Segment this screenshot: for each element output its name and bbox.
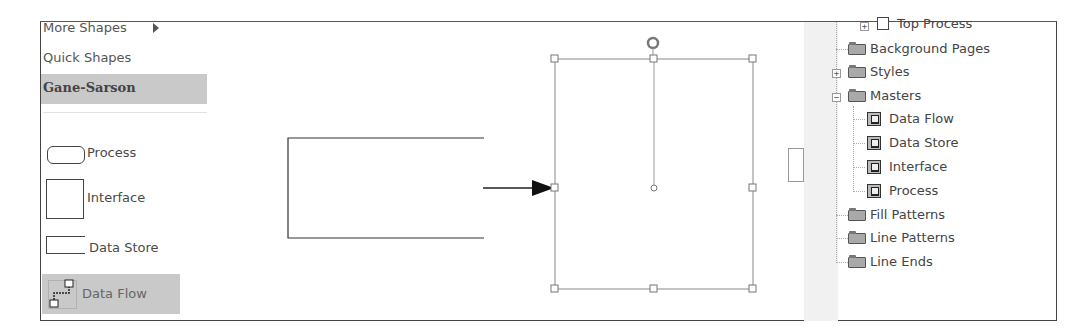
folder-icon [848, 65, 866, 78]
tree-item-label: Process [889, 183, 938, 198]
tree-line [836, 49, 848, 50]
tree-item-styles[interactable]: Styles [848, 64, 909, 79]
tree-item-line-ends[interactable]: Line Ends [848, 254, 933, 269]
tree-item-label: Interface [889, 159, 947, 174]
tree-item-line-patterns[interactable]: Line Patterns [848, 230, 955, 245]
data-store-shape[interactable] [288, 138, 484, 238]
tree-item-top-process[interactable]: Top Process [877, 16, 972, 31]
tree-item-fill-patterns[interactable]: Fill Patterns [848, 207, 945, 222]
expand-toggle[interactable]: + [832, 69, 841, 78]
splitter-bar[interactable] [804, 22, 838, 321]
tree-item-master-data-flow[interactable]: Data Flow [867, 111, 954, 126]
tree-item-master-interface[interactable]: Interface [867, 159, 947, 174]
folder-icon [848, 42, 866, 55]
tree-line [853, 119, 865, 120]
tree-line [836, 215, 848, 216]
tree-line [853, 143, 865, 144]
data-flow-connector[interactable] [483, 180, 554, 196]
tree-item-label: Fill Patterns [870, 207, 945, 222]
tree-item-label: Line Patterns [870, 230, 955, 245]
tree-line [836, 22, 837, 263]
drawing-canvas[interactable] [41, 22, 801, 321]
tree-item-label: Line Ends [870, 254, 933, 269]
folder-icon [848, 208, 866, 221]
master-icon [867, 136, 881, 150]
tree-line [853, 191, 865, 192]
pin-handle[interactable] [651, 185, 657, 191]
tree-item-label: Data Store [889, 135, 959, 150]
visio-window: More Shapes Quick Shapes Gane-Sarson Pro… [40, 21, 1057, 321]
selected-shape[interactable] [555, 59, 753, 289]
tree-item-master-process[interactable]: Process [867, 183, 938, 198]
folder-icon [848, 255, 866, 268]
tree-item-background-pages[interactable]: Background Pages [848, 41, 990, 56]
tree-line [853, 167, 865, 168]
scroll-thumb[interactable] [788, 148, 804, 182]
master-icon [867, 160, 881, 174]
master-icon [867, 112, 881, 126]
tree-item-label: Data Flow [889, 111, 954, 126]
tree-item-master-data-store[interactable]: Data Store [867, 135, 959, 150]
collapse-toggle[interactable]: − [832, 93, 841, 102]
page-icon [877, 17, 889, 30]
folder-open-icon [848, 89, 866, 102]
tree-item-label: Top Process [897, 16, 972, 31]
tree-item-label: Masters [870, 88, 921, 103]
tree-line [836, 262, 848, 263]
master-icon [867, 184, 881, 198]
tree-line [836, 238, 848, 239]
expand-toggle[interactable]: + [860, 22, 869, 31]
folder-icon [848, 231, 866, 244]
tree-item-masters[interactable]: Masters [848, 88, 921, 103]
tree-item-label: Styles [870, 64, 909, 79]
tree-item-label: Background Pages [870, 41, 990, 56]
